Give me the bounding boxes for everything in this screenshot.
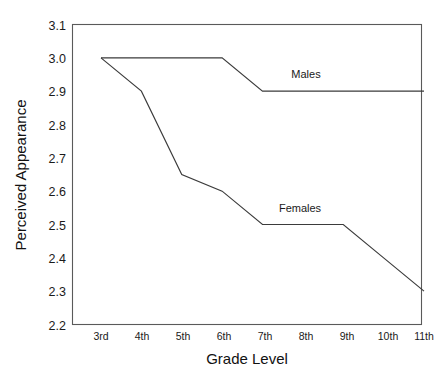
y-tick-label: 2.9: [49, 85, 66, 99]
y-tick-label: 2.2: [49, 319, 66, 333]
x-tick-label: 5th: [176, 330, 191, 342]
y-tick-label: 2.7: [49, 152, 66, 166]
x-tick-label: 9th: [340, 330, 355, 342]
x-tick-label: 11th: [414, 330, 434, 342]
y-axis-tick-labels: 3.1 3.0 2.9 2.8 2.7 2.6 2.5 2.4 2.3 2.2: [49, 19, 66, 333]
y-tick-label: 2.4: [49, 252, 66, 266]
x-tick-label: 8th: [299, 330, 314, 342]
y-axis-title: Perceived Appearance: [12, 100, 29, 251]
line-chart: 3.1 3.0 2.9 2.8 2.7 2.6 2.5 2.4 2.3 2.2 …: [0, 0, 442, 377]
x-tick-label: 3rd: [93, 330, 108, 342]
x-tick-label: 10th: [378, 330, 399, 342]
x-tick-label: 4th: [135, 330, 150, 342]
y-tick-label: 2.5: [49, 219, 66, 233]
y-tick-label: 2.8: [49, 119, 66, 133]
x-axis-title: Grade Level: [206, 350, 288, 367]
x-tick-label: 7th: [258, 330, 273, 342]
series-label-males: Males: [291, 68, 321, 80]
y-tick-label: 3.1: [49, 19, 66, 33]
series-label-females: Females: [279, 202, 322, 214]
plot-frame: [73, 25, 422, 325]
chart-figure: 3.1 3.0 2.9 2.8 2.7 2.6 2.5 2.4 2.3 2.2 …: [0, 0, 442, 377]
y-tick-label: 2.6: [49, 185, 66, 199]
y-tick-label: 3.0: [49, 52, 66, 66]
x-tick-label: 6th: [217, 330, 232, 342]
x-axis-tick-labels: 3rd 4th 5th 6th 7th 8th 9th 10th 11th: [93, 330, 434, 342]
y-tick-label: 2.3: [49, 285, 66, 299]
